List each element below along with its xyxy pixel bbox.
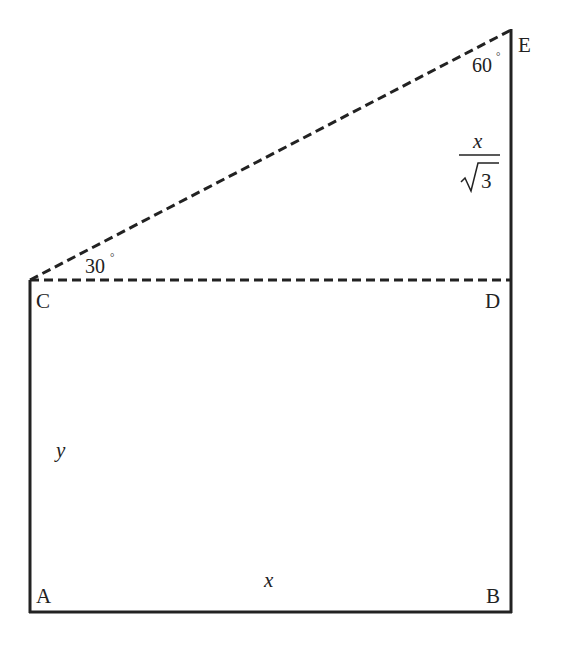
degree-symbol-E: °	[496, 50, 500, 62]
radical-sign	[461, 163, 499, 191]
degree-symbol-C: °	[110, 251, 114, 263]
radicand: 3	[481, 169, 492, 193]
vertex-label-C: C	[36, 289, 50, 313]
vertex-label-B: B	[486, 584, 500, 608]
side-label-x-bottom: x	[263, 568, 274, 592]
dashed-CE	[30, 30, 511, 280]
vertex-label-A: A	[36, 584, 52, 608]
fraction-numerator: x	[472, 129, 483, 153]
angle-label-C: 30	[85, 255, 105, 277]
side-label-fraction: x 3	[459, 129, 500, 193]
vertex-label-E: E	[518, 33, 531, 57]
vertex-label-D: D	[485, 289, 500, 313]
side-label-y: y	[54, 438, 66, 462]
angle-label-E: 60	[472, 54, 492, 76]
geometry-diagram: E C D A B 60 ° 30 ° x y x 3	[0, 0, 565, 658]
